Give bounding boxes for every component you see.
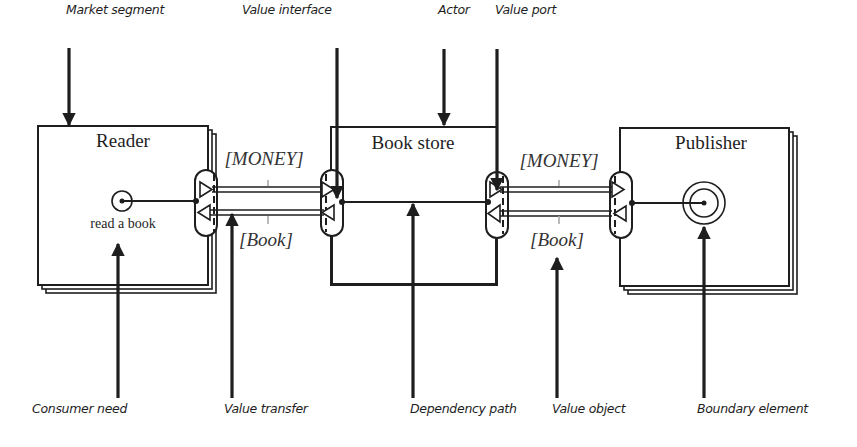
actor-name-reader: Reader [96, 130, 150, 152]
annotation-boundary-element: Boundary element [697, 401, 808, 416]
annotation-actor: Actor [438, 2, 470, 17]
value-transfer-money-right[interactable] [500, 187, 618, 192]
actor-name-book-store: Book store [372, 132, 455, 154]
value-object-book-right: [Book] [530, 229, 584, 251]
consumer-need-label: read a book [90, 216, 155, 232]
annotation-value-interface: Value interface [242, 2, 332, 17]
annotation-dependency-path: Dependency path [410, 401, 517, 416]
annotation-value-object: Value object [552, 401, 625, 416]
value-object-book-left: [Book] [239, 229, 293, 251]
value-transfer-book-right[interactable] [494, 211, 612, 216]
stop-stimulus-icon[interactable] [683, 182, 725, 224]
value-transfer-money-left[interactable] [212, 187, 330, 192]
actor-name-publisher: Publisher [675, 132, 747, 154]
annotation-market-segment: Market segment [66, 2, 164, 17]
annotation-consumer-need: Consumer need [32, 401, 127, 416]
value-object-money-left: [MONEY] [224, 148, 303, 170]
annotation-value-transfer: Value transfer [224, 401, 308, 416]
value-object-money-right: [MONEY] [519, 150, 598, 172]
annotation-value-port: Value port [495, 2, 556, 17]
value-transfer-book-left[interactable] [206, 210, 324, 215]
